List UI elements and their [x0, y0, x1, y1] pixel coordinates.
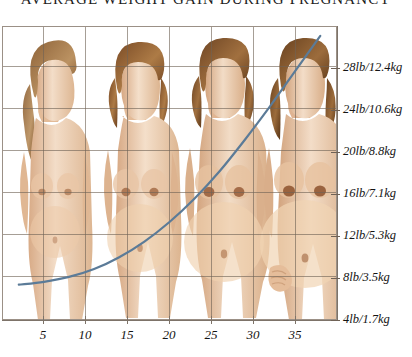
- x-axis-label-5: 5: [26, 327, 60, 343]
- y-axis-tick: [331, 236, 340, 237]
- y-axis-tick: [331, 152, 340, 153]
- x-axis-label-20: 20: [152, 327, 186, 343]
- x-axis-tick: [127, 316, 128, 324]
- plot-area: [2, 26, 337, 320]
- x-axis-label-35: 35: [278, 327, 312, 343]
- y-axis-tick: [331, 110, 340, 111]
- y-axis-line: [337, 26, 338, 321]
- weight-gain-chart: AVERAGE WEIGHT GAIN DURING PREGNANCY: [0, 0, 412, 357]
- background-figures-layer: [2, 26, 337, 320]
- chart-title: AVERAGE WEIGHT GAIN DURING PREGNANCY: [0, 0, 412, 8]
- figure-first-trimester: [6, 26, 98, 320]
- y-axis-tick: [331, 278, 340, 279]
- x-axis-tick: [295, 316, 296, 324]
- x-axis-label-25: 25: [194, 327, 228, 343]
- figure-full-term: [250, 26, 337, 320]
- y-axis-tick: [331, 320, 340, 321]
- x-axis-label-15: 15: [110, 327, 144, 343]
- y-axis-label-4lb: 4lb/1.7kg: [343, 312, 390, 327]
- x-axis-tick: [43, 316, 44, 324]
- x-axis-label-30: 30: [236, 327, 270, 343]
- y-axis-label-20lb: 20lb/8.8kg: [343, 144, 396, 159]
- y-axis-tick: [331, 194, 340, 195]
- x-axis-tick: [85, 316, 86, 324]
- y-axis-label-8lb: 8lb/3.5kg: [343, 270, 390, 285]
- y-axis-label-12lb: 12lb/5.3kg: [343, 228, 396, 243]
- y-axis-label-24lb: 24lb/10.6kg: [343, 102, 402, 117]
- x-axis-label-10: 10: [68, 327, 102, 343]
- x-axis-line: [2, 320, 338, 321]
- x-axis-tick: [211, 316, 212, 324]
- y-axis-tick: [331, 68, 340, 69]
- x-axis-tick: [169, 316, 170, 324]
- x-axis-tick: [253, 316, 254, 324]
- y-axis-label-16lb: 16lb/7.1kg: [343, 186, 396, 201]
- y-axis-label-28lb: 28lb/12.4kg: [343, 60, 402, 75]
